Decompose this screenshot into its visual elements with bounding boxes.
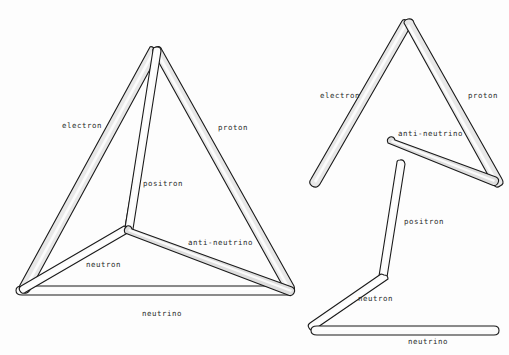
label-right-positron: positron — [404, 218, 444, 225]
right-upper-group — [310, 19, 503, 187]
left-tetrahedron-group — [16, 46, 295, 295]
label-left-neutrino: neutrino — [142, 310, 182, 317]
left-rod-proton — [153, 46, 295, 293]
right-rod-neutrino — [311, 326, 499, 335]
right-positron-rod-highlight — [382, 163, 401, 276]
right-lower-group — [308, 160, 499, 335]
right-rod-positron — [379, 160, 405, 280]
right-proton-rod-highlight — [407, 24, 498, 184]
left-neutrino-rod-highlight — [24, 288, 286, 290]
label-left-positron: positron — [143, 180, 183, 187]
label-left-neutron: neutron — [86, 261, 121, 268]
label-right-neutrino: neutrino — [408, 338, 448, 345]
label-left-proton: proton — [218, 124, 248, 131]
label-right-electron: electron — [320, 92, 360, 99]
left-rod-neutrino — [16, 286, 293, 295]
right-electron-rod-highlight — [314, 23, 407, 183]
label-right-neutron: neutron — [358, 295, 393, 302]
right-neutrino-rod-body — [311, 326, 499, 335]
rod-diagram-svg — [0, 0, 509, 355]
label-right-proton: proton — [468, 92, 498, 99]
left-neutrino-rod-body — [16, 286, 293, 295]
label-left-anti-neutrino: anti-neutrino — [188, 239, 253, 246]
left-proton-rod-highlight — [156, 51, 290, 290]
label-left-electron: electron — [62, 122, 102, 129]
label-right-anti-neutrino: anti-neutrino — [398, 130, 463, 137]
figure-canvas: electron proton positron anti-neutrino n… — [0, 0, 509, 355]
right-neutrino-rod-highlight — [319, 328, 492, 330]
